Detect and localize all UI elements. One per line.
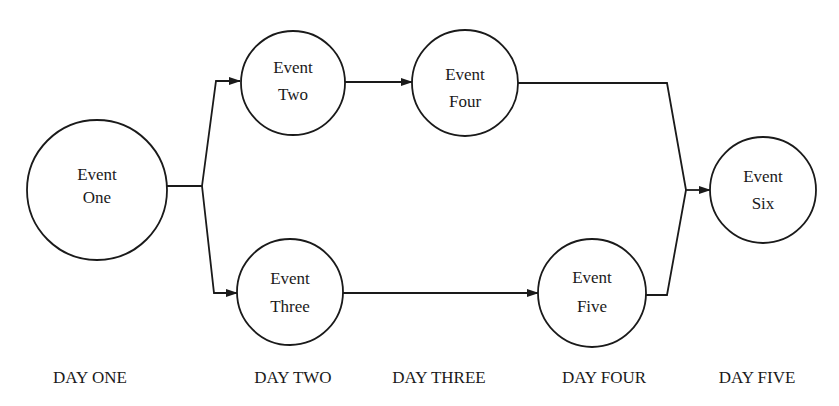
event-network-diagram: Event One Event Two Event Three Event Fo…	[0, 0, 839, 406]
node-label-line1: Event	[572, 268, 612, 287]
node-circle	[241, 31, 345, 135]
day-axis: DAY ONE DAY TWO DAY THREE DAY FOUR DAY F…	[53, 368, 795, 387]
node-label-line1: Event	[77, 165, 117, 184]
node-label-line1: Event	[270, 269, 310, 288]
edge-one-to-three	[202, 186, 237, 293]
day-label-four: DAY FOUR	[562, 368, 647, 387]
node-label-line2: Three	[270, 297, 310, 316]
node-event-six: Event Six	[710, 137, 816, 243]
node-circle	[710, 137, 816, 243]
node-label-line2: Six	[752, 194, 775, 213]
edge-five-to-merge	[646, 190, 686, 295]
node-circle	[237, 239, 343, 345]
node-circle	[538, 239, 646, 347]
day-label-three: DAY THREE	[392, 368, 485, 387]
node-event-five: Event Five	[538, 239, 646, 347]
node-label-line2: Four	[449, 92, 481, 111]
node-event-two: Event Two	[241, 31, 345, 135]
node-label-line2: One	[83, 188, 111, 207]
edge-four-to-merge	[518, 83, 686, 190]
edge-one-to-two	[202, 81, 240, 186]
node-label-line2: Two	[278, 85, 308, 104]
day-label-two: DAY TWO	[254, 368, 331, 387]
day-label-one: DAY ONE	[53, 368, 127, 387]
day-label-five: DAY FIVE	[719, 368, 796, 387]
node-label-line2: Five	[577, 297, 607, 316]
node-event-four: Event Four	[412, 30, 518, 136]
node-event-three: Event Three	[237, 239, 343, 345]
node-label-line1: Event	[445, 65, 485, 84]
node-label-line1: Event	[743, 167, 783, 186]
node-label-line1: Event	[273, 58, 313, 77]
node-event-one: Event One	[27, 120, 167, 260]
